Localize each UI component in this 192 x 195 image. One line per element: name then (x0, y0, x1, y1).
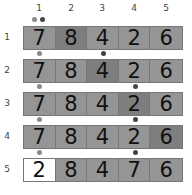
pointer-dot-j (101, 51, 106, 56)
array-cell: 6 (150, 60, 182, 82)
array-cell: 4 (87, 27, 119, 49)
row-label: 2 (2, 65, 12, 75)
array-row: 78426 (23, 26, 183, 50)
pointer-dot-j (133, 84, 138, 89)
array-cell: 8 (56, 126, 88, 148)
pointer-dot-j (133, 117, 138, 122)
array-cell: 8 (56, 159, 88, 181)
array-cell: 6 (150, 27, 182, 49)
array-cell: 2 (119, 93, 151, 115)
array-cell: 6 (150, 93, 182, 115)
array-cell: 6 (150, 126, 182, 148)
array-cell: 2 (119, 60, 151, 82)
pointer-dot-i (37, 84, 42, 89)
array-cell: 2 (119, 27, 151, 49)
column-label: 5 (150, 3, 182, 13)
array-cell: 7 (119, 159, 151, 181)
array-row: 78426 (23, 59, 183, 83)
row-label: 5 (2, 164, 12, 174)
pointer-dot-i (32, 17, 37, 22)
array-cell: 7 (24, 60, 56, 82)
row-label: 3 (2, 98, 12, 108)
pointer-dot-j (40, 17, 45, 22)
array-cell: 4 (87, 159, 119, 181)
array-cell: 7 (24, 27, 56, 49)
pointer-dot-i (37, 117, 42, 122)
array-cell: 7 (24, 126, 56, 148)
column-label: 4 (118, 3, 150, 13)
column-label: 3 (86, 3, 118, 13)
array-row: 78426 (23, 125, 183, 149)
pointer-dot-j (133, 150, 138, 155)
pointer-dot-i (37, 51, 42, 56)
array-row: 78426 (23, 92, 183, 116)
column-label: 1 (23, 3, 55, 13)
array-cell: 8 (56, 27, 88, 49)
row-label: 1 (2, 32, 12, 42)
array-cell: 4 (87, 126, 119, 148)
array-cell: 8 (56, 60, 88, 82)
array-row: 28476 (23, 158, 183, 182)
array-cell: 4 (87, 93, 119, 115)
array-cell: 2 (24, 159, 56, 181)
column-label: 2 (55, 3, 87, 13)
array-cell: 4 (87, 60, 119, 82)
row-label: 4 (2, 131, 12, 141)
array-cell: 2 (119, 126, 151, 148)
pointer-dot-i (37, 150, 42, 155)
array-cell: 7 (24, 93, 56, 115)
array-cell: 8 (56, 93, 88, 115)
array-cell: 6 (150, 159, 182, 181)
